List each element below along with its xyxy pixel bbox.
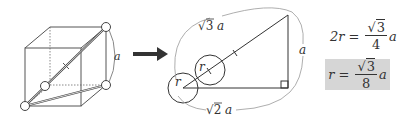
cube-edge-label: a	[114, 50, 121, 63]
radius-label-center: r	[199, 60, 206, 74]
hypotenuse-radical: √3	[198, 19, 213, 33]
height-label: a	[299, 43, 306, 57]
right-triangle	[168, 15, 288, 103]
right-angle-marker	[281, 81, 288, 88]
cube	[25, 27, 115, 106]
svg-text:a: a	[225, 103, 232, 117]
dimension-arcs	[175, 8, 304, 110]
radius-label-corner: r	[175, 75, 182, 89]
equation-radius-highlighted: r = √3 8 a	[325, 59, 390, 90]
svg-text:a: a	[217, 19, 224, 33]
right-arrow-icon	[133, 47, 168, 61]
base-radical: √2	[206, 103, 221, 117]
equation-diameter: 2r = √3 4 a	[330, 21, 397, 51]
